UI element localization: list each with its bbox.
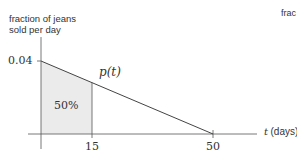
x-tick-label-15: 15 — [85, 140, 99, 153]
y-tick-label-0.04: 0.04 — [8, 54, 33, 67]
y-axis-label: fraction of jeans sold per day — [9, 13, 76, 35]
x-axis-label: t (days) — [264, 126, 297, 137]
x-axis-var: t — [264, 126, 268, 137]
curve-label: p(t) — [99, 65, 121, 79]
shaded-region-label: 50% — [54, 99, 78, 112]
clipped-label: frac — [281, 8, 296, 18]
y-axis-label-line-2: sold per day — [9, 24, 76, 35]
x-tick-label-50: 50 — [206, 140, 220, 153]
x-axis-unit: (days) — [271, 126, 297, 137]
y-axis-label-line-1: fraction of jeans — [9, 13, 76, 24]
